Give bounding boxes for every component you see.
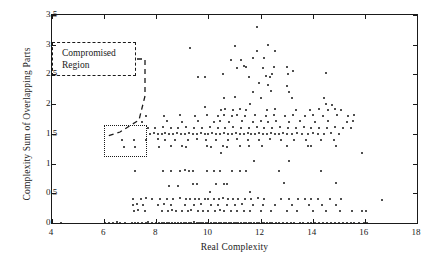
scatter-plot-figure: Compromised Region Real Complexity Compl…: [0, 0, 437, 265]
x-axis-title: Real Complexity: [51, 242, 418, 252]
x-axis-tick: [104, 219, 105, 223]
y-axis-tick: [413, 134, 417, 135]
x-axis-tick: [313, 15, 314, 19]
compromised-region-label-box: Compromised Region: [52, 42, 136, 76]
compromised-region-highlight-box: [104, 125, 147, 157]
y-axis-tick: [413, 193, 417, 194]
x-tick-label: 12: [255, 227, 264, 237]
y-axis-tick: [413, 164, 417, 165]
x-axis-tick: [261, 219, 262, 223]
x-axis-tick: [313, 219, 314, 223]
x-axis-tick: [417, 15, 418, 19]
compromised-region-label-text: Compromised Region: [62, 47, 116, 71]
y-axis-tick: [413, 74, 417, 75]
x-axis-tick: [261, 15, 262, 19]
x-axis-tick: [104, 15, 105, 19]
y-axis-tick: [52, 223, 56, 224]
y-axis-tick: [52, 164, 56, 165]
x-axis-tick: [208, 15, 209, 19]
y-axis-tick: [52, 45, 56, 46]
x-axis-tick: [156, 15, 157, 19]
x-tick-label: 10: [203, 227, 212, 237]
x-axis-tick: [417, 219, 418, 223]
x-tick-label: 16: [359, 227, 368, 237]
x-tick-label: 6: [101, 227, 106, 237]
y-axis-tick: [413, 223, 417, 224]
x-tick-label: 18: [412, 227, 421, 237]
x-axis-tick: [365, 15, 366, 19]
y-axis-tick: [413, 104, 417, 105]
x-axis-tick: [156, 219, 157, 223]
x-axis-tick: [208, 219, 209, 223]
x-tick-label: 8: [153, 227, 158, 237]
x-axis-tick: [365, 219, 366, 223]
y-axis-tick: [52, 104, 56, 105]
y-axis-title: Complexity Sum of Overlapping Parts: [22, 19, 32, 229]
x-tick-label: 14: [307, 227, 316, 237]
y-axis-tick: [413, 45, 417, 46]
x-tick-label: 4: [49, 227, 54, 237]
plot-area: Compromised Region: [51, 14, 418, 224]
y-axis-tick: [413, 15, 417, 16]
annotation-overlay: Compromised Region: [52, 15, 417, 223]
